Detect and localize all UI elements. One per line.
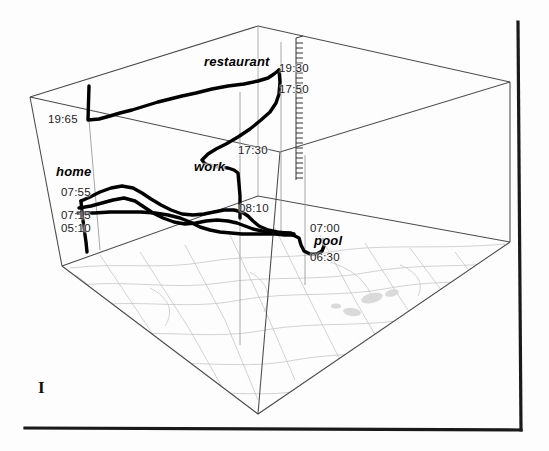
time-label-1750: 17:50 [279,83,309,95]
page-frame [25,22,521,430]
figure-caption: I [38,378,45,398]
space-time-cube-figure: restaurant work home pool 19:30 17:50 19… [0,0,549,451]
time-label-0755: 07:55 [61,186,91,198]
time-label-0715: 07:15 [61,209,91,221]
time-label-0700: 07:00 [310,222,340,234]
time-label-1930: 19:30 [279,62,309,74]
trajectory-evening-restaurant [88,70,279,120]
place-label-pool: pool [314,233,342,248]
time-label-0510: 05:10 [61,222,91,234]
cube-wireframe [30,26,510,414]
place-label-work: work [194,159,225,174]
time-label-0630: 06:30 [310,251,340,263]
time-label-1730: 17:30 [238,144,268,156]
floor-map-blobs [331,288,400,317]
place-label-home: home [56,164,91,179]
time-label-0810: 08:10 [239,202,269,214]
floor-map [70,228,508,410]
place-label-restaurant: restaurant [204,54,270,69]
anchor-pillars [88,42,305,345]
time-label-1965: 19:65 [48,113,78,125]
time-axis-ruler [296,36,303,180]
